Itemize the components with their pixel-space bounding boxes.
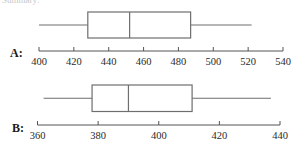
boxplot-figure: 400420440460480500520540360380400420440: [0, 0, 295, 153]
plot-a-tick-label: 540: [275, 56, 291, 67]
plot-b-tick-label: 420: [212, 130, 228, 141]
plot-b-tick-label: 440: [272, 130, 288, 141]
plot-a-tick-label: 500: [205, 56, 221, 67]
plot-a-tick-label: 480: [171, 56, 187, 67]
plot-a-tick-label: 520: [240, 56, 256, 67]
plot-b-tick-label: 380: [90, 130, 106, 141]
plot-a-box: [88, 12, 191, 38]
plot-b-tick-label: 400: [151, 130, 167, 141]
plot-a-tick-label: 420: [66, 56, 82, 67]
plot-b-tick-label: 360: [30, 130, 46, 141]
plot-b-box: [92, 85, 192, 112]
plot-a-tick-label: 440: [101, 56, 117, 67]
plot-a-tick-label: 400: [31, 56, 47, 67]
plot-a-tick-label: 460: [136, 56, 152, 67]
